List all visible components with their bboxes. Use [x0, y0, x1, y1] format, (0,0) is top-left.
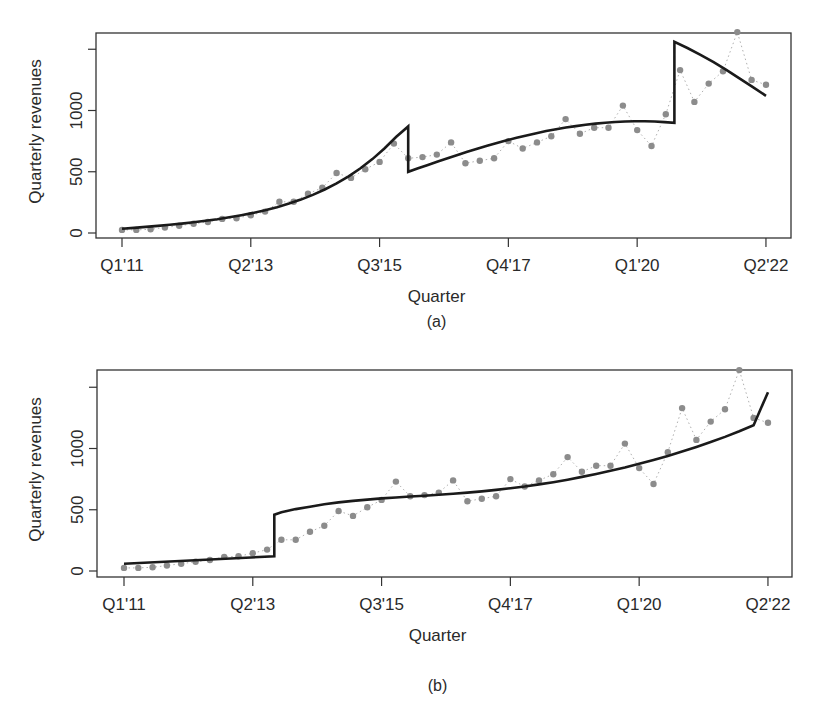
data-point — [763, 82, 769, 88]
y-tick-label: 500 — [68, 496, 87, 524]
y-tick-label: 0 — [67, 228, 86, 237]
data-point — [164, 562, 170, 568]
fit-line — [122, 42, 766, 229]
data-point — [550, 471, 556, 477]
data-point — [250, 550, 256, 556]
observed-dotted-line — [124, 370, 768, 568]
data-point — [333, 170, 339, 176]
data-point — [321, 523, 327, 529]
data-point — [708, 418, 714, 424]
chart-panel-a: 05001000Quarterly revenuesQ1'11Q2'13Q3'1… — [0, 0, 818, 340]
x-axis-label: Quarter — [408, 287, 466, 306]
x-tick-label: Q4'17 — [488, 595, 533, 614]
panel-caption: (a) — [427, 313, 447, 330]
data-point — [693, 437, 699, 443]
data-point — [121, 565, 127, 571]
x-tick-label: Q1'20 — [615, 256, 660, 275]
y-axis-label: Quarterly revenues — [26, 59, 45, 204]
x-tick-label: Q2'13 — [228, 256, 273, 275]
data-point — [605, 125, 611, 131]
data-point — [278, 537, 284, 543]
panel-caption: (b) — [428, 677, 448, 694]
data-point — [593, 463, 599, 469]
data-point — [393, 478, 399, 484]
data-point — [350, 513, 356, 519]
data-point — [622, 440, 628, 446]
x-axis-label: Quarter — [409, 626, 467, 645]
x-tick-label: Q1'11 — [102, 595, 146, 614]
data-point — [307, 529, 313, 535]
fit-line — [124, 392, 768, 564]
line-chart-a: 05001000Quarterly revenuesQ1'11Q2'13Q3'1… — [0, 0, 818, 340]
data-point — [364, 504, 370, 510]
data-point — [734, 29, 740, 35]
data-point — [479, 496, 485, 502]
data-point — [534, 139, 540, 145]
data-point — [335, 508, 341, 514]
data-point — [677, 67, 683, 73]
data-point — [607, 463, 613, 469]
data-point — [376, 159, 382, 165]
x-axis: Q1'11Q2'13Q3'15Q4'17Q1'20Q2'22 — [102, 577, 790, 614]
y-axis: 05001000 — [68, 387, 97, 575]
data-point — [135, 565, 141, 571]
observed-dotted-line — [122, 32, 766, 230]
data-point — [636, 465, 642, 471]
y-tick-label: 1000 — [67, 92, 86, 130]
data-point — [663, 111, 669, 117]
x-tick-label: Q1'20 — [617, 595, 662, 614]
plot-area-frame — [96, 33, 791, 238]
y-axis-label: Quarterly revenues — [26, 397, 45, 542]
data-point — [648, 143, 654, 149]
data-point — [548, 133, 554, 139]
data-point — [520, 145, 526, 151]
data-point — [276, 199, 282, 205]
data-point — [577, 131, 583, 137]
data-point — [634, 127, 640, 133]
data-point — [679, 405, 685, 411]
data-point — [264, 546, 270, 552]
data-point — [620, 102, 626, 108]
x-tick-label: Q4'17 — [486, 256, 531, 275]
data-point — [507, 476, 513, 482]
data-point — [434, 151, 440, 157]
observed-points — [121, 367, 771, 571]
data-point — [448, 139, 454, 145]
data-point — [293, 537, 299, 543]
data-point — [149, 564, 155, 570]
data-point — [562, 116, 568, 122]
data-point — [722, 406, 728, 412]
data-point — [691, 99, 697, 105]
data-point — [493, 493, 499, 499]
x-tick-label: Q2'13 — [230, 595, 275, 614]
data-point — [591, 125, 597, 131]
data-point — [564, 454, 570, 460]
data-point — [491, 155, 497, 161]
data-point — [450, 477, 456, 483]
x-tick-label: Q2'22 — [746, 595, 791, 614]
x-tick-label: Q1'11 — [100, 256, 144, 275]
data-point — [748, 77, 754, 83]
plot-area-frame — [97, 370, 792, 577]
data-point — [579, 469, 585, 475]
x-tick-label: Q3'15 — [357, 256, 402, 275]
observed-points — [119, 29, 769, 233]
data-point — [765, 420, 771, 426]
data-point — [419, 154, 425, 160]
data-point — [736, 367, 742, 373]
data-point — [706, 80, 712, 86]
data-point — [536, 477, 542, 483]
x-axis: Q1'11Q2'13Q3'15Q4'17Q1'20Q2'22 — [100, 238, 788, 275]
data-point — [650, 481, 656, 487]
data-point — [464, 498, 470, 504]
y-axis: 05001000 — [67, 49, 96, 237]
line-chart-b: 05001000Quarterly revenuesQ1'11Q2'13Q3'1… — [0, 337, 818, 702]
y-tick-label: 500 — [67, 158, 86, 186]
y-tick-label: 1000 — [68, 430, 87, 468]
y-tick-label: 0 — [68, 566, 87, 575]
chart-panel-b: 05001000Quarterly revenuesQ1'11Q2'13Q3'1… — [0, 337, 818, 702]
x-tick-label: Q2'22 — [744, 256, 789, 275]
data-point — [462, 160, 468, 166]
x-tick-label: Q3'15 — [359, 595, 404, 614]
data-point — [477, 158, 483, 164]
